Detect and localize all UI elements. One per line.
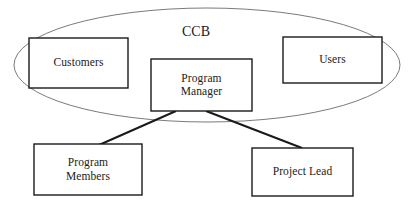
node-box-users[interactable] [283,37,382,83]
diagram-graphics [0,0,408,207]
node-box-customers[interactable] [29,38,128,88]
connector-pm-to-program-members [99,111,176,145]
node-box-program-manager[interactable] [151,59,252,111]
node-box-project-lead[interactable] [252,148,353,196]
node-box-program-members[interactable] [34,144,142,195]
diagram-canvas: CCB Customers Program Manager Users Prog… [0,0,408,207]
